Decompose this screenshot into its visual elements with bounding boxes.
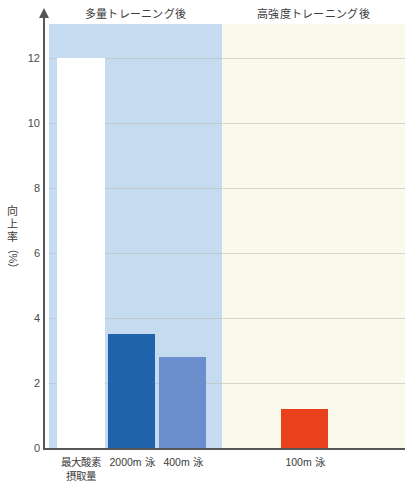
y-tick-label-10: 10: [6, 118, 40, 129]
y-axis-title-unit: （%）: [6, 243, 19, 259]
y-axis-title-char-2: 上: [4, 218, 20, 231]
y-tick-label-4: 4: [6, 313, 40, 324]
x-label-swim-2000m: 2000m 泳: [106, 455, 158, 469]
x-label-swim-100m: 100m 泳: [280, 455, 330, 469]
bar-swim-2000m: [108, 334, 155, 448]
chart-container: 多量トレーニング後 高強度トレーニング後 12 10 8 6 4 2 0 向 上…: [0, 0, 405, 484]
bar-vo2max: [57, 58, 105, 448]
bar-swim-100m: [281, 409, 328, 448]
group-title-intensity-training: 高強度トレーニング後: [222, 7, 405, 21]
panel-intensity-training: [222, 24, 405, 448]
group-title-volume-training: 多量トレーニング後: [49, 7, 222, 21]
x-label-swim-400m: 400m 泳: [159, 455, 207, 469]
x-label-vo2max: 最大酸素 摂取量: [49, 455, 113, 483]
y-tick-label-2: 2: [6, 378, 40, 389]
x-label-vo2max-line2: 摂取量: [49, 469, 113, 483]
y-axis-line: [43, 16, 45, 449]
y-tick-label-0: 0: [6, 443, 40, 454]
y-tick-label-8: 8: [6, 183, 40, 194]
y-axis-title-char-1: 向: [4, 205, 20, 218]
y-tick-label-12: 12: [6, 53, 40, 64]
x-axis-line: [43, 448, 405, 450]
bar-swim-400m: [159, 357, 206, 448]
x-label-vo2max-line1: 最大酸素: [61, 456, 101, 468]
y-axis-title: 向 上 率 （%）: [4, 205, 20, 257]
